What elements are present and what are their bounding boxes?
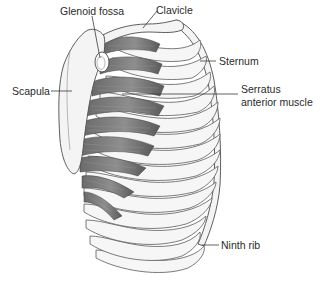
- label-serratus-line2: anterior muscle: [241, 96, 313, 108]
- anatomy-figure: Glenoid fossa Clavicle Sternum Scapula S…: [0, 0, 322, 284]
- label-glenoid-fossa: Glenoid fossa: [60, 5, 124, 17]
- label-sternum: Sternum: [219, 55, 259, 67]
- thorax-illustration: [0, 0, 322, 284]
- label-ninth-rib: Ninth rib: [221, 239, 260, 251]
- label-clavicle: Clavicle: [156, 4, 193, 16]
- ribs: [84, 40, 220, 273]
- glenoid-fossa: [95, 52, 109, 72]
- label-scapula: Scapula: [12, 85, 50, 97]
- label-serratus-line1: Serratus: [241, 83, 281, 95]
